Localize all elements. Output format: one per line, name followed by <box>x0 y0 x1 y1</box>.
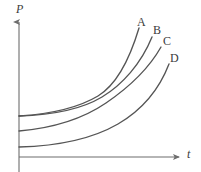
curve-d <box>19 64 169 147</box>
curve-label-b: B <box>153 24 161 36</box>
curve-a <box>19 28 139 116</box>
y-axis-label: P <box>16 3 23 15</box>
axes-group <box>19 22 179 172</box>
curves-group <box>19 28 169 147</box>
plot-canvas <box>0 0 201 172</box>
x-axis-label: t <box>187 148 190 160</box>
growth-curves-figure: P t A B C D <box>0 0 201 172</box>
curve-label-a: A <box>137 16 146 28</box>
curve-label-d: D <box>170 52 179 64</box>
curve-label-c: C <box>163 35 171 47</box>
